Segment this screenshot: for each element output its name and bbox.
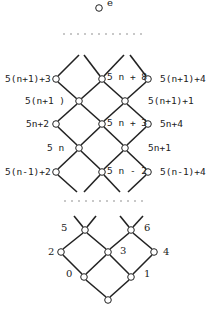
lattice-diagram: e [0,0,215,319]
label-b-right: 5(n+1)+1 [148,95,194,106]
label-d-right: 5n+1 [148,142,171,153]
label-5: 5 [61,222,67,233]
label-1: 1 [144,268,150,279]
lower-edges [63,216,152,297]
node-bottom [105,297,112,304]
label-c-left: 5n+2 [26,118,49,129]
label-top-e: e [107,0,113,8]
label-e-right: 5(n-1)+4 [160,166,206,177]
label-4: 4 [163,246,169,257]
label-c-right: 5n+4 [160,118,183,129]
label-0: 0 [66,268,72,279]
label-a-center: 5 n + 8 [107,71,147,82]
label-6: 6 [144,222,150,233]
label-e-center: 5 n - 2 [107,165,147,176]
label-2: 2 [48,246,54,257]
label-e-left: 5(n-1)+2 [5,166,51,177]
label-a-left: 5(n+1)+3 [5,73,51,84]
label-3: 3 [120,245,126,256]
node-top [96,5,103,12]
label-b-left: 5(n+1 ) [25,95,65,106]
label-a-right: 5(n+1)+4 [160,73,206,84]
label-c-center: 5 n + 3 [107,117,147,128]
ellipsis-upper [63,33,141,34]
label-d-left: 5 n [47,142,64,153]
ellipsis-lower [64,200,142,201]
